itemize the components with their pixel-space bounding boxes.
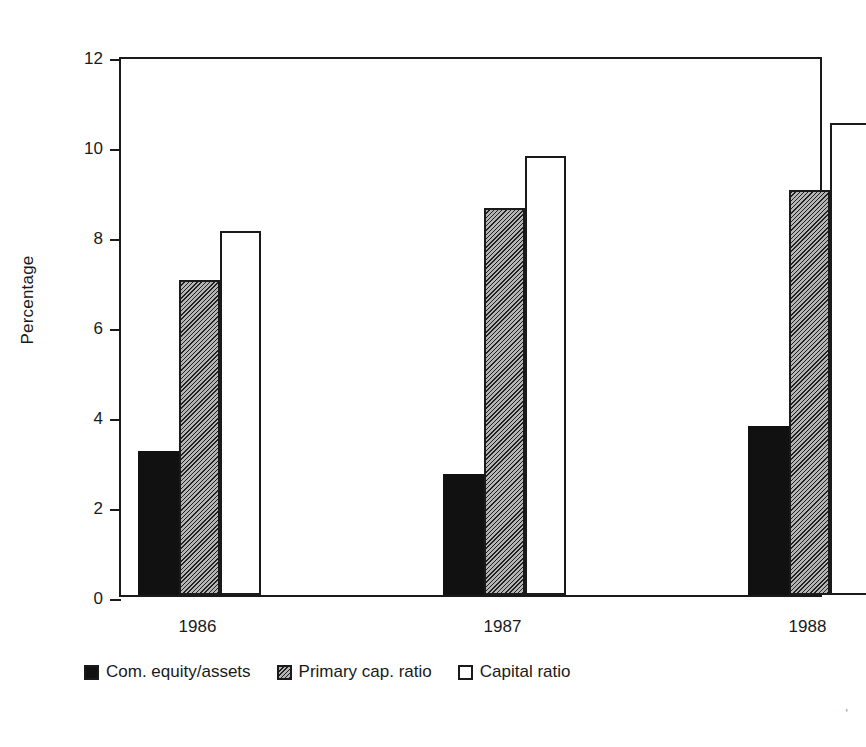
legend-item-primary-cap-ratio: Primary cap. ratio	[277, 662, 432, 682]
x-tick-label-1986: 1986	[179, 617, 217, 637]
y-tick-mark-icon	[110, 59, 121, 61]
y-tick-label: 0	[94, 589, 103, 609]
y-tick-label: 2	[94, 499, 103, 519]
y-tick-mark-icon	[110, 509, 121, 511]
legend-item-com-equity-assets: Com. equity/assets	[84, 662, 251, 682]
scan-artifact-mark: '	[846, 706, 848, 721]
plot-area: 024681012	[119, 57, 822, 597]
y-axis-title: Percentage	[0, 0, 56, 600]
bar-1987-series-2	[484, 208, 525, 595]
bar-1987-series-1	[443, 474, 484, 596]
y-tick-label: 4	[94, 409, 103, 429]
y-tick-label: 10	[84, 139, 103, 159]
y-tick-mark-icon	[110, 599, 121, 601]
legend-label-com-equity-assets: Com. equity/assets	[106, 662, 251, 682]
chart-legend: Com. equity/assets Primary cap. ratio Ca…	[84, 662, 570, 682]
bar-1986-series-2	[179, 280, 220, 595]
y-tick-mark-icon	[110, 239, 121, 241]
x-tick-label-1987: 1987	[484, 617, 522, 637]
legend-swatch-icon-hatched-gray	[277, 665, 292, 680]
bar-group-1987	[443, 59, 566, 595]
bar-1987-series-3	[525, 156, 566, 595]
bar-chart-figure: Percentage 024681012 1986198719881989 Co…	[0, 0, 866, 747]
bar-group-1988	[748, 59, 866, 595]
bar-1986-series-1	[138, 451, 179, 595]
x-tick-label-1988: 1988	[789, 617, 827, 637]
bar-1988-series-2	[789, 190, 830, 595]
legend-item-capital-ratio: Capital ratio	[458, 662, 571, 682]
bar-1986-series-3	[220, 231, 261, 596]
y-tick-label: 6	[94, 319, 103, 339]
y-tick-label: 12	[84, 49, 103, 69]
bar-1988-series-1	[748, 426, 789, 595]
y-tick-mark-icon	[110, 329, 121, 331]
y-axis-title-text: Percentage	[18, 256, 38, 345]
legend-label-primary-cap-ratio: Primary cap. ratio	[299, 662, 432, 682]
legend-swatch-icon-solid-black	[84, 665, 99, 680]
y-tick-mark-icon	[110, 149, 121, 151]
legend-label-capital-ratio: Capital ratio	[480, 662, 571, 682]
bar-group-1986	[138, 59, 261, 595]
y-tick-mark-icon	[110, 419, 121, 421]
y-tick-label: 8	[94, 229, 103, 249]
legend-swatch-icon-open-white	[458, 665, 473, 680]
bar-1988-series-3	[830, 123, 866, 596]
